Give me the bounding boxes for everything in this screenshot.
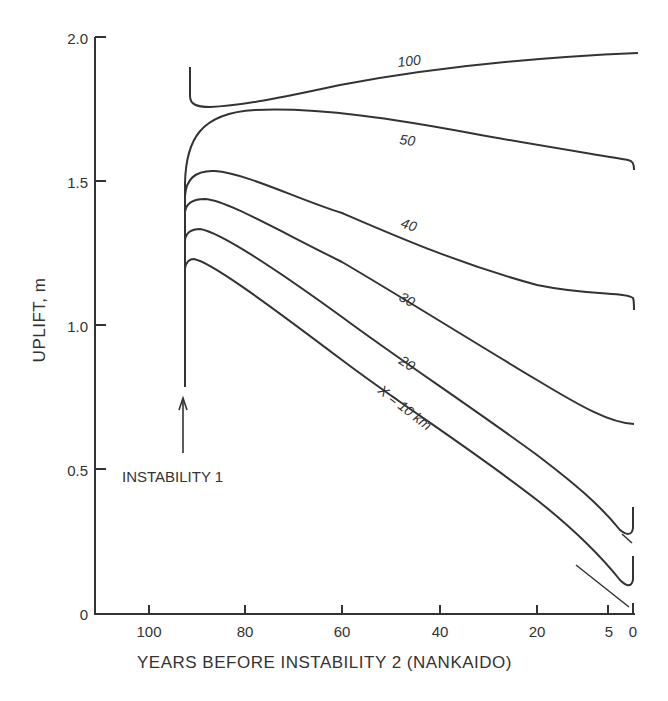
curve-20 [185, 229, 633, 534]
tangent-line-20 [622, 534, 632, 543]
axes [95, 37, 635, 614]
y-tick-label: 1.0 [67, 318, 88, 335]
curve-40 [185, 171, 634, 310]
x-tick-label: 100 [136, 623, 161, 640]
instability-1-annotation: INSTABILITY 1 [122, 398, 223, 485]
x-tick-label: 5 [605, 623, 613, 640]
x-tick-label: 80 [237, 623, 254, 640]
x-tick-labels: 100 80 60 40 20 5 0 [136, 623, 637, 640]
y-tick-label: 2.0 [67, 30, 88, 47]
y-tick-label: 1.5 [67, 174, 88, 191]
curve-label-20: 20 [396, 352, 419, 375]
x-tick-label: 20 [529, 623, 546, 640]
x-tick-label: 40 [432, 623, 449, 640]
y-tick-labels: 2.0 1.5 1.0 0.5 0 [67, 30, 88, 623]
y-tick-label: 0.5 [67, 462, 88, 479]
uplift-chart: 2.0 1.5 1.0 0.5 0 100 80 60 40 20 5 0 YE… [0, 0, 668, 701]
curve-label-100: 100 [397, 52, 422, 70]
y-axis-title: UPLIFT, m [30, 278, 49, 363]
x-tick-label: 0 [629, 623, 637, 640]
curve-label-50: 50 [399, 131, 417, 149]
curve-label-40: 40 [399, 215, 419, 235]
y-tick-label: 0 [80, 606, 88, 623]
annotation-label: INSTABILITY 1 [122, 468, 223, 485]
x-tick-label: 60 [334, 623, 351, 640]
curve-label-10: X = 10 km [374, 381, 435, 433]
tangent-line-10 [576, 565, 629, 607]
axis-lines [95, 37, 635, 614]
x-axis-title: YEARS BEFORE INSTABILITY 2 (NANKAIDO) [137, 653, 512, 672]
